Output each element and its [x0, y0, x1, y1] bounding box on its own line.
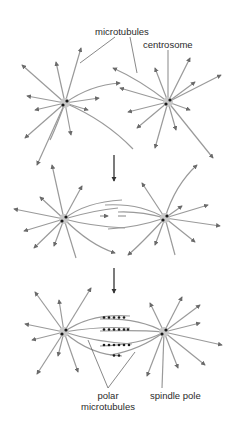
aster-right	[113, 58, 221, 158]
polar-microtubules	[64, 316, 164, 356]
centrosome-right-2	[160, 213, 170, 223]
stage-2-panel	[14, 165, 220, 258]
stage-1-panel	[22, 37, 221, 165]
label-leaders-stage-3	[88, 340, 135, 388]
label-spindle-pole: spindle pole	[150, 391, 201, 401]
label-microtubules: microtubules	[95, 27, 149, 37]
stage-3-panel	[25, 288, 222, 388]
aster-left	[22, 48, 133, 165]
overlapping-microtubules-2	[64, 200, 165, 229]
label-polar: polar	[88, 391, 128, 401]
centrosome-right-3	[159, 327, 169, 337]
label-polar-microtubules: microtubules	[76, 402, 140, 412]
centrosome-right	[163, 97, 173, 107]
centrosome-left-2	[59, 214, 69, 224]
aster-right-3	[147, 297, 222, 388]
mitotic-spindle-diagram	[0, 0, 235, 429]
label-centrosome: centrosome	[143, 40, 193, 50]
centrosome-left-3	[59, 327, 69, 337]
aster-right-2	[128, 165, 220, 255]
aster-left-3	[25, 288, 91, 374]
centrosome-left	[60, 98, 70, 108]
aster-left-2	[14, 165, 115, 258]
